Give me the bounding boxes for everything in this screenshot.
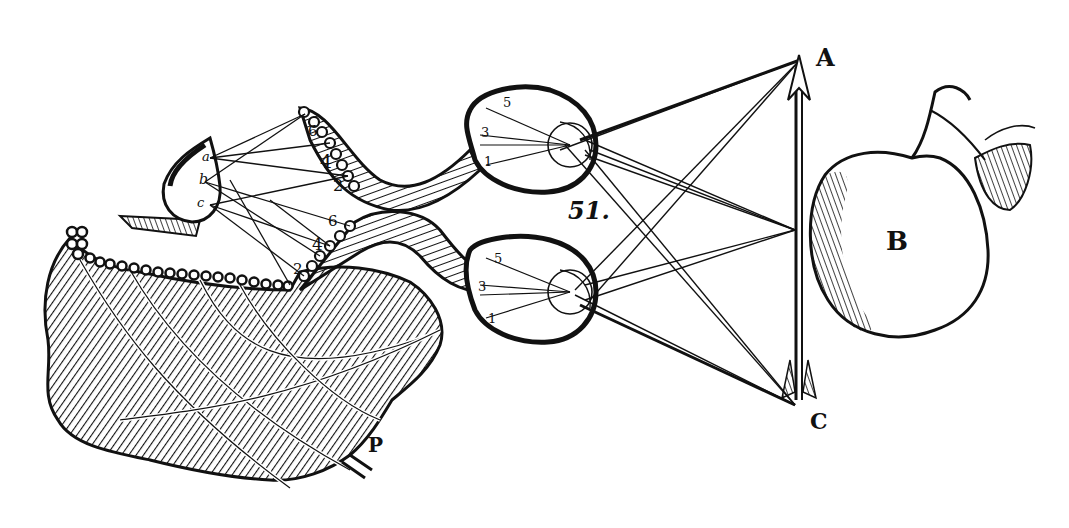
tube-bottom-point-6: 6 [328,214,338,229]
label-B: B [886,228,908,254]
pineal-point-c: c [197,196,204,209]
vision-diagram: A B C P 51. 5 3 1 5 3 1 6 4 2 6 4 2 a b … [0,0,1069,528]
apple-B [810,87,1035,337]
eye-top-point-1: 1 [484,155,492,168]
figure-number: 51. [568,196,610,225]
eye-bottom-point-5: 5 [494,252,502,265]
tube-top-point-6: 6 [308,124,318,139]
label-C: C [810,410,828,432]
eye-bottom-point-3: 3 [478,280,486,293]
pineal-point-a: a [202,150,210,163]
eye-top-point-5: 5 [503,96,511,109]
label-P: P [368,435,383,455]
tube-top-point-2: 2 [333,178,343,194]
light-rays [560,60,800,405]
eye-bottom-point-1: 1 [488,312,496,325]
eye-top-point-3: 3 [481,126,489,139]
woodcut-illustration [0,0,1069,528]
pineal-point-b: b [199,172,208,186]
tube-bottom-point-4: 4 [312,236,323,253]
tube-top-point-4: 4 [320,152,332,171]
tube-bottom-point-2: 2 [293,262,303,277]
label-A: A [816,46,835,70]
